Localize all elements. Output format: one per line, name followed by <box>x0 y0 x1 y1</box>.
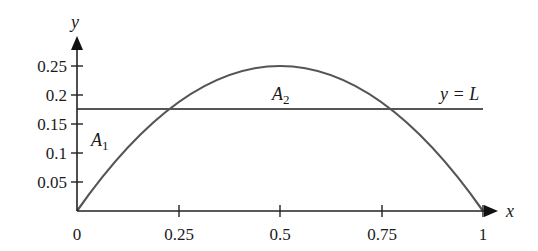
x-axis-arrow-icon <box>484 205 498 217</box>
x-tick-label: 0.25 <box>164 225 194 244</box>
y-tick-label: 0.05 <box>37 173 67 192</box>
x-tick-label: 0.5 <box>269 225 290 244</box>
line-label-y-equals-L: y = L <box>438 84 479 104</box>
x-axis-label: x <box>505 201 514 221</box>
area-label-a1: A1 <box>90 130 109 153</box>
y-tick-label: 0.15 <box>37 115 67 134</box>
y-tick-label: 0.1 <box>46 144 67 163</box>
x-tick-label: 0 <box>73 225 82 244</box>
chart-canvas: 0 0.25 0.5 0.75 1 0.05 0.1 0.15 0.2 0.25… <box>0 0 538 251</box>
y-axis-arrow-icon <box>71 36 83 50</box>
y-axis-label: y <box>69 12 79 32</box>
y-tick-label: 0.2 <box>46 86 67 105</box>
y-tick-label: 0.25 <box>37 57 67 76</box>
x-tick-label: 1 <box>479 225 488 244</box>
x-tick-label: 0.75 <box>367 225 397 244</box>
area-label-a2: A2 <box>271 84 290 107</box>
